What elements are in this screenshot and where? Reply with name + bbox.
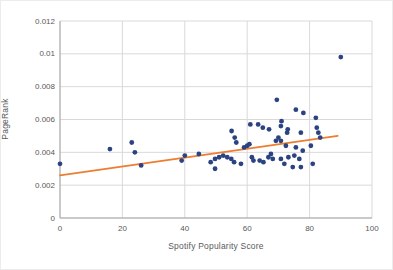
data-point [196, 152, 201, 157]
data-point [139, 163, 144, 168]
y-tick-label: 0.012 [35, 17, 56, 26]
y-tick-label: 0.004 [35, 148, 56, 157]
data-point [308, 143, 313, 148]
x-tick-label: 100 [365, 224, 379, 233]
data-point [256, 122, 261, 127]
data-point [300, 148, 305, 153]
data-point [129, 140, 134, 145]
data-point [229, 129, 234, 134]
data-point [282, 161, 287, 166]
scatter-chart: 02040608010000.0020.0040.0060.0080.010.0… [0, 0, 393, 270]
data-point [310, 161, 315, 166]
data-point [278, 157, 283, 162]
data-point [301, 111, 306, 116]
y-tick-label: 0.002 [35, 181, 56, 190]
data-point [318, 135, 323, 140]
data-point [270, 157, 275, 162]
data-point [251, 158, 256, 163]
plot-area: 02040608010000.0020.0040.0060.0080.010.0… [1, 1, 393, 270]
data-point [267, 127, 272, 132]
data-point [316, 130, 321, 135]
data-point [274, 97, 279, 102]
x-tick-label: 0 [58, 224, 63, 233]
data-point [108, 147, 113, 152]
gridlines [60, 21, 372, 218]
tick-labels: 02040608010000.0020.0040.0060.0080.010.0… [35, 17, 379, 234]
data-point [293, 107, 298, 112]
y-axis-title: PageRank [0, 84, 10, 154]
data-points-layer [58, 55, 344, 171]
x-tick-label: 20 [118, 224, 127, 233]
data-point [179, 158, 184, 163]
y-tick-label: 0.008 [35, 82, 56, 91]
data-point [239, 161, 244, 166]
data-point [292, 153, 297, 158]
data-point [278, 124, 283, 129]
data-point [182, 153, 187, 158]
data-point [247, 142, 252, 147]
data-point [283, 143, 288, 148]
data-point [290, 165, 295, 170]
data-point [58, 161, 63, 166]
data-point [286, 155, 291, 160]
x-tick-label: 40 [180, 224, 189, 233]
y-tick-label: 0.006 [35, 115, 56, 124]
data-point [298, 130, 303, 135]
x-axis-title: Spotify Popularity Score [60, 241, 372, 251]
x-tick-label: 60 [243, 224, 252, 233]
data-point [208, 160, 213, 165]
data-point [298, 165, 303, 170]
data-point [213, 166, 218, 171]
y-tick-label: 0 [51, 214, 56, 223]
data-point [278, 138, 283, 143]
data-point [279, 119, 284, 124]
data-point [261, 160, 266, 165]
data-point [338, 55, 343, 60]
x-tick-label: 80 [305, 224, 314, 233]
data-point [314, 125, 319, 130]
data-point [248, 122, 253, 127]
data-point [232, 135, 237, 140]
data-point [269, 152, 274, 157]
data-point [260, 125, 265, 130]
data-point [313, 115, 318, 120]
data-point [232, 160, 237, 165]
data-point [285, 130, 290, 135]
y-tick-label: 0.01 [39, 49, 55, 58]
data-point [234, 140, 239, 145]
data-point [293, 145, 298, 150]
data-point [132, 150, 137, 155]
data-point [297, 157, 302, 162]
